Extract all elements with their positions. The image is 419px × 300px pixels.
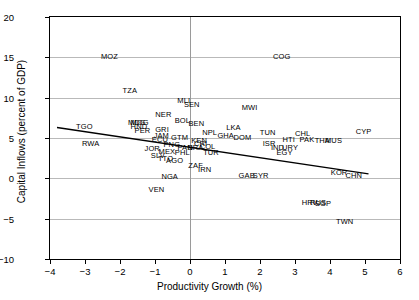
x-tick-label: 5	[345, 266, 385, 277]
data-point-label: TUN	[260, 129, 276, 137]
y-tick-label: 5	[0, 133, 14, 144]
x-tick-mark	[260, 260, 261, 264]
data-point-label: CYP	[356, 128, 372, 136]
x-tick-mark	[400, 260, 401, 264]
x-tick-mark	[225, 260, 226, 264]
y-tick-label: 15	[0, 52, 14, 63]
data-point-label: EGY	[276, 150, 292, 158]
y-tick-label: 20	[0, 12, 14, 23]
y-tick-label: 0	[0, 173, 14, 184]
data-point-label: PER	[135, 127, 151, 135]
data-point-label: SEN	[184, 101, 200, 109]
x-tick-label: 6	[380, 266, 419, 277]
data-point-label: AGO	[166, 158, 183, 166]
x-tick-mark	[330, 260, 331, 264]
x-tick-label: −2	[100, 266, 140, 277]
y-tick-label: −10	[0, 254, 14, 265]
x-tick-label: 3	[275, 266, 315, 277]
plot-area: MOZTZACOGMLISENMWINERBOLBENMDGMOGHNDTGOP…	[49, 16, 401, 260]
data-point-label: SYR	[253, 172, 269, 180]
x-tick-label: −4	[30, 266, 70, 277]
x-tick-mark	[120, 260, 121, 264]
data-point-label: BEN	[188, 121, 204, 129]
x-tick-label: 0	[170, 266, 210, 277]
data-point-label: COG	[273, 54, 290, 62]
data-point-label: IRN	[198, 167, 211, 175]
data-point-label: DOM	[234, 134, 252, 142]
x-tick-label: 1	[205, 266, 245, 277]
data-point-label: SGP	[315, 200, 331, 208]
data-point-label: TUR	[203, 149, 219, 157]
data-point-label: PHL	[175, 149, 190, 157]
data-point-label: MWI	[242, 104, 258, 112]
data-point-label: MUS	[325, 137, 342, 145]
data-point-label: GHA	[217, 132, 234, 140]
data-point-label: CHN	[346, 172, 363, 180]
x-tick-label: −1	[135, 266, 175, 277]
data-point-label: NGA	[161, 173, 178, 181]
x-tick-mark	[365, 260, 366, 264]
scatter-chart: Capital Inflows (percent of GDP) Product…	[0, 0, 419, 300]
y-axis-label: Capital Inflows (percent of GDP)	[16, 17, 27, 247]
data-point-label: MOZ	[101, 54, 118, 62]
x-tick-mark	[85, 260, 86, 264]
x-tick-label: 4	[310, 266, 350, 277]
data-point-label: TZA	[123, 87, 137, 95]
x-tick-mark	[295, 260, 296, 264]
y-tick-label: 10	[0, 92, 14, 103]
data-point-label: PAK	[300, 137, 315, 145]
data-point-label: TGO	[76, 123, 93, 131]
x-axis-label: Productivity Growth (%)	[0, 281, 419, 292]
x-tick-mark	[50, 260, 51, 264]
x-tick-mark	[190, 260, 191, 264]
data-point-label: TWN	[336, 218, 353, 226]
data-point-label: VEN	[149, 186, 165, 194]
data-point-label: NER	[155, 112, 171, 120]
x-tick-label: −3	[65, 266, 105, 277]
y-tick-label: −5	[0, 213, 14, 224]
x-tick-mark	[155, 260, 156, 264]
data-point-label: RWA	[82, 140, 99, 148]
x-tick-label: 2	[240, 266, 280, 277]
